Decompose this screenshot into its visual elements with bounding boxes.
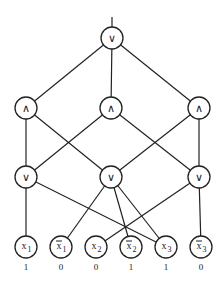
- and-gate-a2: ∧: [100, 97, 122, 119]
- and-symbol-icon: ∧: [195, 102, 203, 115]
- wire-root-a1: [26, 38, 112, 108]
- or-gate-root: ∨: [101, 27, 123, 49]
- leaf-value: 0: [94, 262, 99, 272]
- leaf-x2: x20: [85, 236, 107, 272]
- or-symbol-icon: ∨: [195, 171, 203, 184]
- leaf-variable: x: [22, 240, 27, 251]
- leaf-subscript: 1: [63, 245, 67, 254]
- leaf-subscript: 3: [168, 245, 172, 254]
- and-symbol-icon: ∧: [107, 102, 115, 115]
- or-symbol-icon: ∨: [108, 32, 116, 45]
- leaf-subscript: 1: [28, 245, 32, 254]
- and-gate-a3: ∧: [188, 97, 210, 119]
- leaf-variable: x: [92, 240, 97, 251]
- leaf-variable: x: [57, 240, 62, 251]
- circuit-edges: [26, 17, 201, 247]
- leaf-value: 1: [164, 262, 169, 272]
- leaf-value: 0: [199, 262, 204, 272]
- or-symbol-icon: ∨: [22, 171, 30, 184]
- leaf-nx1: x10: [50, 236, 72, 272]
- leaf-value: 1: [129, 262, 134, 272]
- or-gate-o2: ∨: [100, 166, 122, 188]
- leaf-subscript: 3: [203, 245, 207, 254]
- wire-root-a3: [112, 38, 199, 108]
- leaf-value: 1: [24, 262, 29, 272]
- leaf-x3: x31: [155, 236, 177, 272]
- or-symbol-icon: ∨: [107, 171, 115, 184]
- leaf-variable: x: [162, 240, 167, 251]
- and-gate-a1: ∧: [15, 97, 37, 119]
- leaf-variable: x: [197, 240, 202, 251]
- leaf-subscript: 2: [133, 245, 137, 254]
- leaf-variable: x: [127, 240, 132, 251]
- leaf-value: 0: [59, 262, 64, 272]
- leaf-x1: x11: [15, 236, 37, 272]
- and-symbol-icon: ∧: [22, 102, 30, 115]
- leaf-nx2: x21: [120, 236, 142, 272]
- wire-o2-x3: [111, 177, 166, 247]
- or-gate-o1: ∨: [15, 166, 37, 188]
- leaf-subscript: 2: [98, 245, 102, 254]
- leaf-nx3: x30: [190, 236, 212, 272]
- wire-o2-nx1: [61, 177, 111, 247]
- or-gate-o3: ∨: [188, 166, 210, 188]
- boolean-circuit-diagram: ∨∧∧∧∨∨∨x11x10x20x21x31x30: [0, 0, 222, 282]
